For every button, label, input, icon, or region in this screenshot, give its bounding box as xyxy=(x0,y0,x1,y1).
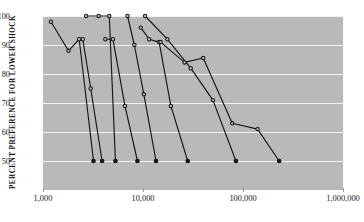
y-tick-label-100: 100 xyxy=(0,12,10,21)
x-tick-mark-1000 xyxy=(43,188,44,192)
y-tick-label-80: 80 xyxy=(0,70,10,79)
gridline-60 xyxy=(43,132,343,133)
y-axis-title: PERCENT PREFERENCE FOR LOWER SHOCK xyxy=(9,12,17,192)
x-tick-mark-10000 xyxy=(143,188,144,192)
gridline-90 xyxy=(43,45,343,46)
y-tick-label-90: 90 xyxy=(0,41,10,50)
gridline-100 xyxy=(43,16,343,17)
x-tick-mark-100000 xyxy=(243,188,244,192)
gridline-70 xyxy=(43,103,343,104)
x-tick-label-1000: 1,000 xyxy=(3,194,83,203)
x-tick-label-10000: 10,000 xyxy=(103,194,183,203)
y-tick-label-60: 60 xyxy=(0,128,10,137)
x-tick-label-100000: 100,000 xyxy=(203,194,283,203)
x-tick-label-1000000: 1,000,000 xyxy=(303,194,364,203)
gridline-50 xyxy=(43,161,343,162)
x-tick-mark-1000000 xyxy=(343,188,344,192)
gridline-80 xyxy=(43,74,343,75)
plot-area xyxy=(43,16,343,190)
y-tick-label-50: 50 xyxy=(0,157,10,166)
y-tick-label-70: 70 xyxy=(0,99,10,108)
